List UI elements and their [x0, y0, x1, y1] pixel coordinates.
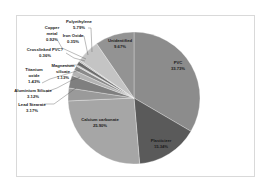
pie-slices [68, 32, 200, 164]
pie-slice-calcium-carbonate [68, 98, 140, 164]
label-plasticizer-name: Plasticizer [151, 138, 172, 143]
label-ironoxide-pct: 0.35% [67, 39, 79, 44]
label-leadstearate-name: Lead Stearate [18, 102, 46, 107]
label-unidentified-name: Unidentified [108, 38, 133, 43]
label-plasticizer-pct: 15.34% [154, 144, 168, 149]
label-crosslinked-name: Crosslinked PVC? [27, 47, 64, 52]
pie-chart: PVC 33.73% Plasticizer 15.34% Calcium ca… [0, 0, 269, 189]
label-aluminium-pct: 3.12% [27, 94, 39, 99]
label-polyethylene-pct: 5.79% [73, 25, 85, 30]
label-polyethylene-name: Polyethylene [66, 19, 93, 24]
label-crosslinked-pct: 0.36% [39, 53, 51, 58]
label-titanium-name2: oxide [29, 73, 41, 78]
label-magnesium-name: Magnesium [51, 63, 74, 68]
label-ironoxide-name: Iron Oxide [63, 33, 84, 38]
label-titanium-pct: 1.43% [28, 79, 40, 84]
label-unidentified-pct: 9.67% [114, 44, 126, 49]
label-calcium-pct: 25.90% [93, 123, 107, 128]
label-magnesium-name2: silicate [56, 69, 71, 74]
label-copper-pct: 0.92% [46, 37, 58, 42]
label-copper-name: Copper [45, 25, 60, 30]
label-aluminium-name: Aluminium Silicate [14, 88, 52, 93]
label-calcium-name: Calcium carbonate [81, 117, 119, 122]
label-magnesium-pct: 1.13% [57, 75, 69, 80]
label-titanium-name: Titanium [25, 67, 43, 72]
label-pvc-name: PVC [174, 60, 183, 65]
label-pvc-pct: 33.73% [171, 66, 185, 71]
label-copper-name2: metal [47, 31, 58, 36]
label-leadstearate-pct: 3.17% [26, 108, 38, 113]
